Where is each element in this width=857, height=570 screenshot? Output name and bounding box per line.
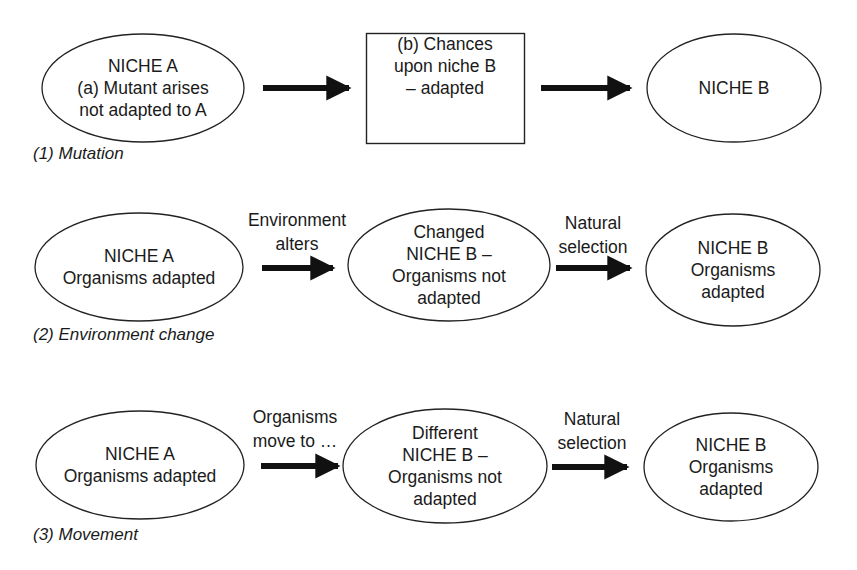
- row3-node-different-niche-b: Different NICHE B – Organisms not adapte…: [343, 409, 547, 523]
- edge-label-line: selection: [558, 235, 627, 259]
- node-line: NICHE B: [691, 237, 776, 259]
- row1-node-niche-a: NICHE A (a) Mutant arises not adapted to…: [42, 34, 244, 142]
- node-line: adapted: [689, 478, 774, 500]
- row1-node-niche-b: NICHE B: [647, 34, 821, 142]
- node-line: adapted: [388, 488, 502, 510]
- node-line: Organisms: [689, 456, 774, 478]
- node-line: Changed: [392, 221, 506, 243]
- row1-caption: (1) Mutation: [33, 144, 124, 164]
- node-line: adapted: [691, 281, 776, 303]
- node-line: upon niche B: [394, 55, 496, 77]
- edge-label-line: selection: [557, 431, 626, 455]
- node-line: (a) Mutant arises: [77, 77, 208, 99]
- node-line: NICHE B: [689, 434, 774, 456]
- row2-edge-label-2: Natural selection: [558, 211, 627, 259]
- node-line: Different: [388, 422, 502, 444]
- node-line: NICHE A: [64, 443, 217, 465]
- node-line: (b) Chances: [394, 33, 496, 55]
- node-line: NICHE B –: [388, 444, 502, 466]
- node-line: NICHE A: [63, 245, 216, 267]
- node-line: Organisms not: [388, 466, 502, 488]
- row2-caption: (2) Environment change: [33, 325, 214, 345]
- edge-label-line: Environment: [248, 208, 346, 232]
- node-line: Organisms not: [392, 265, 506, 287]
- row3-node-niche-b: NICHE B Organisms adapted: [644, 413, 818, 521]
- node-line: Organisms: [691, 259, 776, 281]
- row2-edge-label-1: Environment alters: [248, 208, 346, 256]
- row3-caption: (3) Movement: [33, 525, 138, 545]
- node-line: Organisms adapted: [64, 465, 217, 487]
- edge-label-line: Natural: [558, 211, 627, 235]
- row1-node-chance-box: (b) Chances upon niche B – adapted: [366, 33, 524, 111]
- row3-edge-label-2: Natural selection: [557, 407, 626, 455]
- row3-edge-label-1: Organisms move to …: [253, 405, 338, 453]
- edge-label-line: alters: [248, 232, 346, 256]
- row2-node-niche-b: NICHE B Organisms adapted: [646, 214, 820, 326]
- edge-label-line: Natural: [557, 407, 626, 431]
- node-line: Organisms adapted: [63, 267, 216, 289]
- node-line: NICHE A: [77, 55, 208, 77]
- edge-label-line: Organisms: [253, 405, 338, 429]
- node-line: NICHE B: [699, 77, 770, 99]
- row3-node-niche-a: NICHE A Organisms adapted: [36, 411, 244, 519]
- node-line: not adapted to A: [77, 99, 208, 121]
- row2-node-changed-niche-b: Changed NICHE B – Organisms not adapted: [348, 209, 550, 321]
- node-line: NICHE B –: [392, 243, 506, 265]
- node-line: adapted: [392, 287, 506, 309]
- row2-node-niche-a: NICHE A Organisms adapted: [35, 213, 243, 321]
- edge-label-line: move to …: [253, 429, 338, 453]
- node-line: – adapted: [394, 77, 496, 99]
